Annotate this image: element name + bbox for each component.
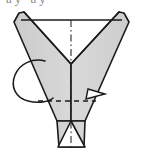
origami-diagram-canvas: [0, 0, 143, 157]
left-wing-panel: [14, 12, 71, 121]
right-wing-panel: [71, 12, 129, 121]
origami-diagram-figure: ay ay: [0, 0, 143, 157]
